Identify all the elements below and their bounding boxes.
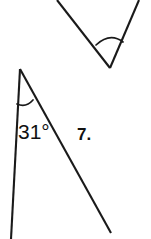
lower-angle-figure bbox=[11, 69, 111, 239]
lower-left-ray bbox=[11, 69, 20, 239]
upper-angle-figure bbox=[57, 0, 139, 68]
lower-right-ray bbox=[20, 69, 111, 233]
upper-left-ray bbox=[57, 0, 110, 68]
upper-right-ray bbox=[110, 0, 139, 68]
geometry-diagram: 31° 7. bbox=[0, 0, 151, 239]
upper-angle-arc-icon bbox=[96, 38, 123, 45]
angle-measure-label: 31° bbox=[18, 121, 50, 142]
lower-angle-arc-icon bbox=[17, 100, 33, 105]
problem-number-label: 7. bbox=[77, 126, 91, 143]
